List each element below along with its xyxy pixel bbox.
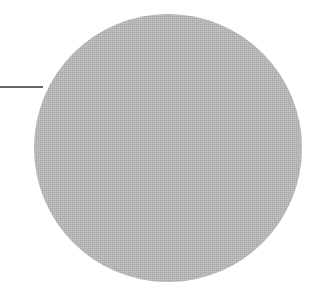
gray-circle (34, 14, 302, 282)
diagram-svg (0, 0, 333, 302)
diagram-canvas (0, 0, 333, 302)
